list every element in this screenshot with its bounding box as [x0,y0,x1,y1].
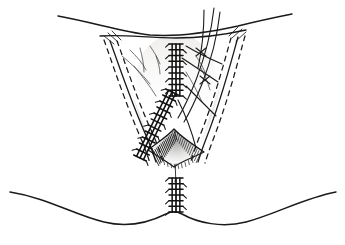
illustration-canvas [0,0,345,245]
surgical-illustration-figure [0,0,345,245]
